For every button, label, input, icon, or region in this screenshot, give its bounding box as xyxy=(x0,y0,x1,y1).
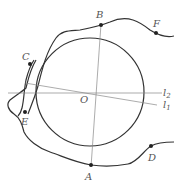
label-d: D xyxy=(147,152,156,163)
outer-curve xyxy=(28,19,174,114)
point-f xyxy=(154,31,158,35)
line-l1 xyxy=(25,83,157,105)
label-a: A xyxy=(84,171,92,182)
point-c xyxy=(28,62,32,66)
point-b xyxy=(99,23,103,27)
label-c: C xyxy=(22,51,30,62)
point-d xyxy=(149,144,153,148)
label-l1: l1 xyxy=(163,99,171,112)
label-o: O xyxy=(80,94,88,105)
point-a xyxy=(89,163,93,167)
label-f: F xyxy=(152,18,161,29)
outer-curve-left-bulge xyxy=(8,60,174,166)
point-e xyxy=(23,110,27,114)
circle-o xyxy=(36,38,144,146)
label-b: B xyxy=(95,9,103,20)
label-e: E xyxy=(20,116,29,127)
geometry-diagram: A B C D E F O l2 l1 xyxy=(0,0,174,195)
